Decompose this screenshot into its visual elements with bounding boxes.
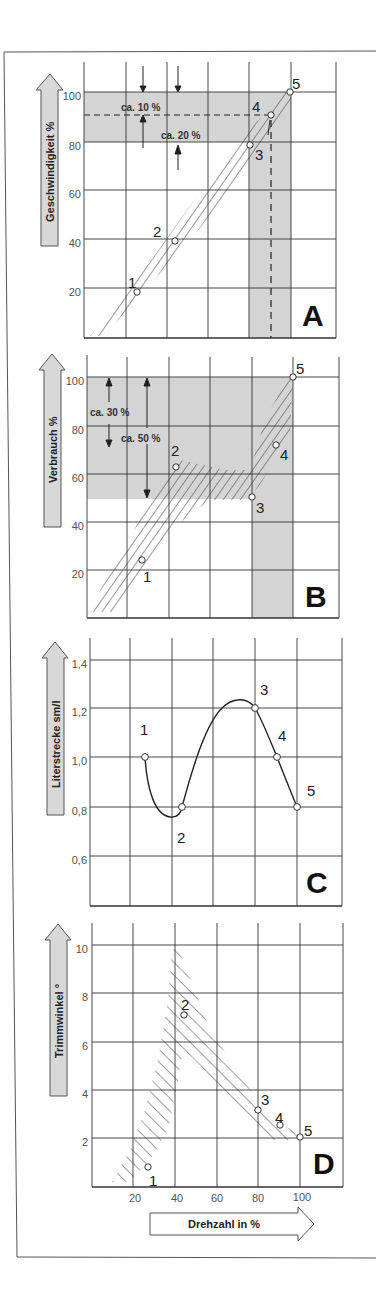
svg-text:4: 4 [278, 727, 286, 744]
svg-text:4: 4 [82, 1088, 88, 1100]
point-labels: 1 2 3 4 5 [140, 681, 315, 846]
annotation-ca-10: ca. 10 % [121, 102, 161, 113]
svg-text:40: 40 [72, 520, 84, 532]
panel-a: ca. 10 % ca. 20 % 20 40 60 80 100 Geschw… [36, 62, 336, 338]
y-axis-arrow: Geschwindigkeit % [36, 74, 63, 246]
data-point-4 [274, 754, 281, 761]
y-tick-labels: 2 4 6 8 10 [76, 943, 88, 1148]
y-axis-title: Verbrauch % [47, 416, 59, 483]
svg-text:0,6: 0,6 [72, 854, 87, 866]
svg-text:2: 2 [177, 829, 185, 846]
svg-text:1: 1 [140, 721, 148, 738]
svg-text:5: 5 [307, 782, 315, 799]
panel-b: ca. 30 % ca. 50 % 20 40 60 80 100 Verbra… [39, 354, 339, 618]
svg-text:8: 8 [82, 991, 88, 1003]
panel-letter-d: D [313, 1147, 335, 1180]
annotation-ca-30: ca. 30 % [90, 407, 130, 418]
svg-text:5: 5 [292, 75, 300, 92]
y-tick-labels: 20 40 60 80 100 [66, 375, 84, 580]
svg-text:1,2: 1,2 [72, 706, 87, 718]
svg-text:80: 80 [252, 1192, 264, 1204]
data-point-4 [273, 442, 279, 448]
svg-text:1: 1 [143, 568, 151, 585]
data-point-2 [179, 804, 186, 811]
svg-text:1: 1 [128, 274, 136, 291]
svg-text:1,4: 1,4 [72, 658, 87, 670]
svg-text:4: 4 [280, 446, 288, 463]
y-axis-arrow: Literstrecke sm/l [42, 642, 68, 815]
svg-text:60: 60 [211, 1192, 223, 1204]
data-point-3 [247, 142, 253, 148]
panel-d: 2 4 6 8 10 20 40 60 80 100 Trimmwinkel °… [45, 923, 343, 1241]
svg-text:80: 80 [72, 424, 84, 436]
grid [90, 638, 342, 906]
svg-text:3: 3 [261, 1091, 269, 1108]
annotation-ca-20: ca. 20 % [161, 130, 201, 141]
svg-text:60: 60 [72, 472, 84, 484]
data-point-3 [252, 705, 259, 712]
panel-letter-a: A [302, 299, 324, 332]
svg-text:4: 4 [252, 98, 260, 115]
data-point-2 [172, 238, 178, 244]
annotation-ca-50: ca. 50 % [121, 433, 161, 444]
data-point-1 [145, 1164, 151, 1170]
svg-text:1: 1 [149, 1172, 157, 1189]
y-tick-labels: 20 40 60 80 100 [63, 90, 81, 298]
y-axis-arrow: Trimmwinkel ° [45, 924, 71, 1096]
svg-text:10: 10 [76, 943, 88, 955]
svg-text:20: 20 [129, 1192, 141, 1204]
panel-c: 0,6 0,8 1,0 1,2 1,4 Literstrecke sm/l 1 … [42, 638, 342, 906]
svg-text:4: 4 [275, 1109, 283, 1126]
hatch-band [112, 948, 300, 1182]
data-points [142, 705, 301, 811]
y-axis-arrow: Verbrauch % [39, 354, 65, 527]
svg-text:3: 3 [255, 146, 263, 163]
y-axis-title: Trimmwinkel ° [53, 984, 65, 1058]
svg-text:100: 100 [66, 375, 84, 387]
svg-text:2: 2 [181, 996, 189, 1013]
y-axis-title: Geschwindigkeit % [44, 122, 56, 222]
svg-text:0,8: 0,8 [72, 805, 87, 817]
svg-text:20: 20 [72, 568, 84, 580]
data-point-1 [139, 557, 145, 563]
x-tick-labels: 20 40 60 80 100 [129, 1191, 311, 1204]
svg-text:3: 3 [260, 681, 268, 698]
svg-text:40: 40 [69, 237, 81, 249]
svg-text:5: 5 [304, 1122, 312, 1139]
panel-letter-b: B [305, 580, 327, 613]
svg-text:2: 2 [153, 223, 161, 240]
figure: ca. 10 % ca. 20 % 20 40 60 80 100 Geschw… [0, 0, 376, 1315]
x-axis-arrow: Drehzahl in % [150, 1207, 314, 1241]
data-point-1 [142, 754, 149, 761]
data-point-4 [268, 112, 274, 118]
svg-text:20: 20 [69, 286, 81, 298]
x-axis-title: Drehzahl in % [188, 1218, 260, 1230]
svg-text:2: 2 [171, 442, 179, 459]
data-point-3 [249, 494, 255, 500]
svg-text:5: 5 [296, 360, 304, 377]
svg-text:3: 3 [256, 499, 264, 516]
svg-text:2: 2 [82, 1136, 88, 1148]
panel-letter-c: C [306, 866, 328, 899]
svg-text:1,0: 1,0 [72, 755, 87, 767]
svg-text:60: 60 [69, 188, 81, 200]
svg-text:40: 40 [171, 1192, 183, 1204]
data-point-2 [173, 464, 179, 470]
data-point-5 [297, 1134, 303, 1140]
svg-text:100: 100 [63, 90, 81, 102]
svg-text:80: 80 [69, 140, 81, 152]
svg-text:100: 100 [293, 1191, 311, 1203]
data-point-5 [294, 804, 301, 811]
y-axis-title: Literstrecke sm/l [50, 701, 62, 788]
svg-text:6: 6 [82, 1040, 88, 1052]
y-tick-labels: 0,6 0,8 1,0 1,2 1,4 [72, 658, 87, 866]
